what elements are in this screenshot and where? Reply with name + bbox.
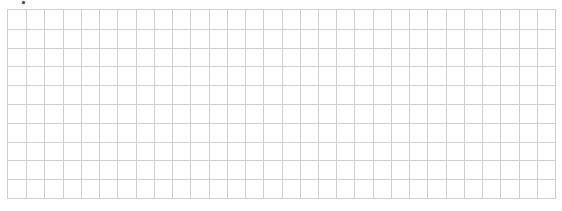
grid-lines [8,10,555,198]
dot-icon [22,1,25,4]
grid-canvas [0,0,562,211]
grid[interactable] [7,9,556,199]
